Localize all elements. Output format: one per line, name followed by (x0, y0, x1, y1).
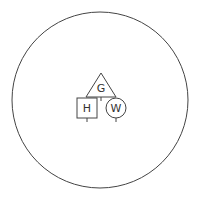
outer-circle (12, 12, 188, 188)
node-g-label: G (97, 82, 106, 95)
diagram-canvas: G H W (0, 0, 200, 198)
node-h-label: H (83, 102, 91, 115)
node-w: W (106, 98, 126, 122)
node-h: H (77, 98, 97, 122)
node-w-label: W (111, 102, 122, 115)
node-g: G (86, 73, 116, 101)
